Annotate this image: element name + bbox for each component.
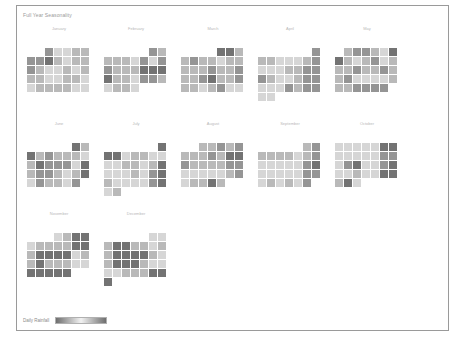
day-cell[interactable] bbox=[276, 152, 284, 160]
day-cell[interactable] bbox=[380, 48, 388, 56]
day-cell[interactable] bbox=[149, 242, 157, 250]
day-cell[interactable] bbox=[158, 242, 166, 250]
day-cell[interactable] bbox=[36, 161, 44, 169]
day-cell[interactable] bbox=[217, 48, 225, 56]
day-cell[interactable] bbox=[63, 242, 71, 250]
day-cell[interactable] bbox=[235, 75, 243, 83]
day-cell[interactable] bbox=[63, 48, 71, 56]
day-cell[interactable] bbox=[190, 152, 198, 160]
day-cell[interactable] bbox=[158, 233, 166, 241]
day-cell[interactable] bbox=[353, 143, 361, 151]
day-cell[interactable] bbox=[113, 66, 121, 74]
day-cell[interactable] bbox=[81, 233, 89, 241]
day-cell[interactable] bbox=[294, 57, 302, 65]
day-cell[interactable] bbox=[294, 84, 302, 92]
day-cell[interactable] bbox=[81, 66, 89, 74]
day-cell[interactable] bbox=[235, 66, 243, 74]
day-cell[interactable] bbox=[276, 161, 284, 169]
day-cell[interactable] bbox=[131, 57, 139, 65]
day-cell[interactable] bbox=[181, 152, 189, 160]
day-cell[interactable] bbox=[54, 260, 62, 268]
day-cell[interactable] bbox=[104, 84, 112, 92]
day-cell[interactable] bbox=[380, 57, 388, 65]
day-cell[interactable] bbox=[140, 170, 148, 178]
day-cell[interactable] bbox=[267, 161, 275, 169]
day-cell[interactable] bbox=[303, 57, 311, 65]
day-cell[interactable] bbox=[63, 233, 71, 241]
day-cell[interactable] bbox=[389, 161, 397, 169]
day-cell[interactable] bbox=[235, 161, 243, 169]
day-cell[interactable] bbox=[72, 152, 80, 160]
day-cell[interactable] bbox=[258, 84, 266, 92]
day-cell[interactable] bbox=[104, 170, 112, 178]
day-cell[interactable] bbox=[63, 84, 71, 92]
day-cell[interactable] bbox=[113, 242, 121, 250]
day-cell[interactable] bbox=[303, 75, 311, 83]
day-cell[interactable] bbox=[131, 242, 139, 250]
day-cell[interactable] bbox=[113, 179, 121, 187]
day-cell[interactable] bbox=[226, 48, 234, 56]
day-cell[interactable] bbox=[371, 143, 379, 151]
day-cell[interactable] bbox=[45, 75, 53, 83]
day-cell[interactable] bbox=[81, 260, 89, 268]
day-cell[interactable] bbox=[362, 48, 370, 56]
day-cell[interactable] bbox=[104, 66, 112, 74]
day-cell[interactable] bbox=[140, 269, 148, 277]
day-cell[interactable] bbox=[344, 170, 352, 178]
day-cell[interactable] bbox=[267, 57, 275, 65]
day-cell[interactable] bbox=[72, 170, 80, 178]
day-cell[interactable] bbox=[208, 57, 216, 65]
day-cell[interactable] bbox=[258, 152, 266, 160]
day-cell[interactable] bbox=[190, 75, 198, 83]
day-cell[interactable] bbox=[303, 152, 311, 160]
day-cell[interactable] bbox=[149, 152, 157, 160]
day-cell[interactable] bbox=[158, 57, 166, 65]
day-cell[interactable] bbox=[335, 170, 343, 178]
day-cell[interactable] bbox=[353, 66, 361, 74]
day-cell[interactable] bbox=[63, 170, 71, 178]
day-cell[interactable] bbox=[235, 84, 243, 92]
day-cell[interactable] bbox=[104, 179, 112, 187]
day-cell[interactable] bbox=[335, 152, 343, 160]
day-cell[interactable] bbox=[36, 269, 44, 277]
day-cell[interactable] bbox=[122, 170, 130, 178]
day-cell[interactable] bbox=[267, 170, 275, 178]
day-cell[interactable] bbox=[312, 66, 320, 74]
day-cell[interactable] bbox=[36, 84, 44, 92]
day-cell[interactable] bbox=[158, 66, 166, 74]
day-cell[interactable] bbox=[104, 188, 112, 196]
day-cell[interactable] bbox=[208, 152, 216, 160]
day-cell[interactable] bbox=[181, 161, 189, 169]
day-cell[interactable] bbox=[380, 161, 388, 169]
day-cell[interactable] bbox=[113, 84, 121, 92]
day-cell[interactable] bbox=[303, 170, 311, 178]
day-cell[interactable] bbox=[27, 269, 35, 277]
day-cell[interactable] bbox=[27, 260, 35, 268]
day-cell[interactable] bbox=[72, 251, 80, 259]
day-cell[interactable] bbox=[131, 161, 139, 169]
day-cell[interactable] bbox=[158, 179, 166, 187]
day-cell[interactable] bbox=[104, 269, 112, 277]
day-cell[interactable] bbox=[362, 66, 370, 74]
day-cell[interactable] bbox=[54, 179, 62, 187]
day-cell[interactable] bbox=[199, 143, 207, 151]
day-cell[interactable] bbox=[122, 161, 130, 169]
day-cell[interactable] bbox=[158, 251, 166, 259]
day-cell[interactable] bbox=[81, 84, 89, 92]
day-cell[interactable] bbox=[235, 57, 243, 65]
day-cell[interactable] bbox=[371, 75, 379, 83]
day-cell[interactable] bbox=[122, 66, 130, 74]
day-cell[interactable] bbox=[140, 242, 148, 250]
day-cell[interactable] bbox=[63, 251, 71, 259]
day-cell[interactable] bbox=[344, 75, 352, 83]
day-cell[interactable] bbox=[27, 57, 35, 65]
day-cell[interactable] bbox=[104, 251, 112, 259]
day-cell[interactable] bbox=[389, 48, 397, 56]
day-cell[interactable] bbox=[63, 75, 71, 83]
day-cell[interactable] bbox=[81, 161, 89, 169]
day-cell[interactable] bbox=[362, 170, 370, 178]
day-cell[interactable] bbox=[371, 170, 379, 178]
day-cell[interactable] bbox=[54, 170, 62, 178]
day-cell[interactable] bbox=[389, 170, 397, 178]
day-cell[interactable] bbox=[131, 170, 139, 178]
